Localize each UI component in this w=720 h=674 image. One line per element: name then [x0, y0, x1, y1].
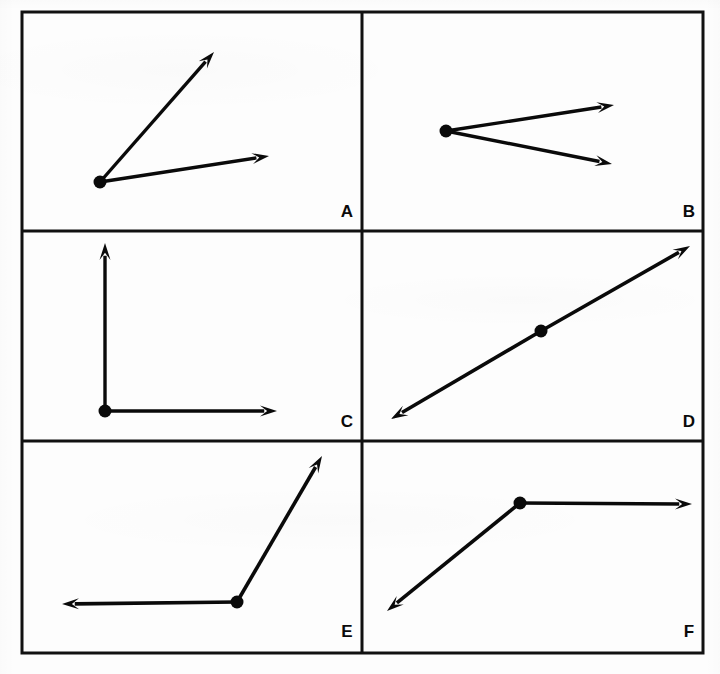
- e-ray-left-shaft: [75, 602, 237, 604]
- e-ray-up-right-shaft: [237, 467, 316, 602]
- panel-c: [99, 243, 278, 418]
- panel-label-e: E: [341, 622, 352, 641]
- f-ray-down-left-shaft: [397, 503, 520, 603]
- worksheet-page: ABCDEF: [0, 0, 720, 674]
- angle-figures-diagram: ABCDEF: [0, 0, 720, 674]
- panel-e: [62, 456, 322, 609]
- e-vertex-dot: [231, 596, 244, 609]
- panel-labels-layer: ABCDEF: [341, 202, 695, 641]
- a-ray-right-shaft: [100, 158, 256, 182]
- b-vertex-dot: [440, 125, 453, 138]
- panel-d: [391, 246, 690, 419]
- panel-label-a: A: [341, 202, 353, 221]
- panel-a: [94, 52, 270, 189]
- d-ray-upper-right-shaft: [541, 252, 679, 331]
- f-ray-right-shaft: [520, 503, 679, 504]
- panel-label-f: F: [684, 622, 694, 641]
- panel-label-b: B: [683, 202, 695, 221]
- c-vertex-dot: [99, 405, 112, 418]
- f-vertex-dot: [514, 497, 527, 510]
- panel-b: [440, 102, 615, 166]
- panel-label-c: C: [341, 412, 353, 431]
- a-ray-up-right-shaft: [100, 62, 206, 182]
- a-vertex-dot: [94, 176, 107, 189]
- b-ray-upper-right-shaft: [446, 107, 601, 131]
- panel-f: [387, 497, 692, 612]
- d-vertex-dot: [535, 325, 548, 338]
- b-ray-lower-right-shaft: [446, 131, 599, 162]
- d-ray-lower-left-shaft: [402, 331, 541, 413]
- panels-layer: [62, 52, 692, 611]
- panel-label-d: D: [683, 412, 695, 431]
